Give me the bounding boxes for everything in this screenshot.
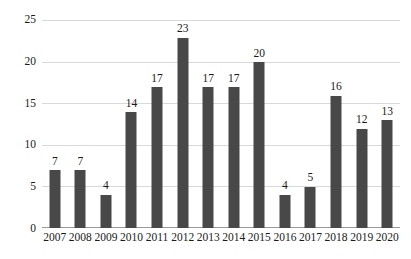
bar-group: 14 — [119, 20, 145, 228]
bar-value-label: 17 — [202, 73, 214, 85]
bar — [382, 120, 393, 228]
bar-group: 20 — [247, 20, 273, 228]
bar — [203, 87, 214, 228]
bar-value-label: 13 — [381, 106, 393, 118]
x-tick-label: 2012 — [171, 232, 194, 244]
bar-value-label: 12 — [356, 114, 368, 126]
bar-value-label: 5 — [308, 172, 314, 184]
bar-value-label: 16 — [330, 81, 342, 93]
bar-value-label: 17 — [151, 73, 163, 85]
bar-group: 13 — [374, 20, 400, 228]
bar — [49, 170, 60, 228]
x-tick-label: 2007 — [43, 232, 66, 244]
bar — [75, 170, 86, 228]
x-tick-label: 2013 — [197, 232, 220, 244]
bar — [177, 38, 188, 228]
x-tick-label: 2017 — [299, 232, 322, 244]
bar-value-label: 7 — [77, 156, 83, 168]
x-tick-label: 2020 — [376, 232, 399, 244]
x-tick-label: 2009 — [94, 232, 117, 244]
x-tick-label: 2018 — [325, 232, 348, 244]
bar — [331, 96, 342, 228]
x-tick-label: 2011 — [146, 232, 169, 244]
x-tick-label: 2014 — [222, 232, 245, 244]
bar — [279, 195, 290, 228]
bar — [126, 112, 137, 228]
y-tick-label: 20 — [14, 56, 36, 68]
bar-value-label: 20 — [254, 48, 266, 60]
y-tick-label: 15 — [14, 98, 36, 110]
bar-group: 4 — [272, 20, 298, 228]
x-tick-label: 2019 — [350, 232, 373, 244]
bar-group: 7 — [68, 20, 94, 228]
x-tick-label: 2016 — [273, 232, 296, 244]
bar-group: 23 — [170, 20, 196, 228]
bar-chart: 25 20 15 10 5 0 77414172317172045161213 … — [0, 0, 411, 259]
bar-group: 17 — [144, 20, 170, 228]
bar-value-label: 4 — [282, 180, 288, 192]
bar-value-label: 4 — [103, 180, 109, 192]
bar — [305, 187, 316, 228]
bar-group: 12 — [349, 20, 375, 228]
y-tick-label: 10 — [14, 139, 36, 151]
bar-group: 17 — [195, 20, 221, 228]
bar — [100, 195, 111, 228]
bar-group: 7 — [42, 20, 68, 228]
bar-value-label: 23 — [177, 23, 189, 35]
bar-value-label: 14 — [126, 98, 138, 110]
bar-value-label: 7 — [52, 156, 58, 168]
bar-group: 17 — [221, 20, 247, 228]
bar — [152, 87, 163, 228]
y-tick-label: 5 — [14, 181, 36, 193]
bar — [254, 62, 265, 228]
bars-layer: 77414172317172045161213 — [42, 20, 400, 228]
bar — [228, 87, 239, 228]
bar-group: 16 — [323, 20, 349, 228]
x-tick-label: 2010 — [120, 232, 143, 244]
y-tick-label: 0 — [14, 223, 36, 235]
bar-value-label: 17 — [228, 73, 240, 85]
bar — [356, 129, 367, 228]
bar-group: 5 — [298, 20, 324, 228]
y-tick-label: 25 — [14, 14, 36, 26]
bar-group: 4 — [93, 20, 119, 228]
plot-area: 77414172317172045161213 — [42, 20, 400, 228]
x-tick-label: 2015 — [248, 232, 271, 244]
x-tick-label: 2008 — [69, 232, 92, 244]
x-axis: 2007200820092010201120122013201420152016… — [42, 232, 400, 254]
